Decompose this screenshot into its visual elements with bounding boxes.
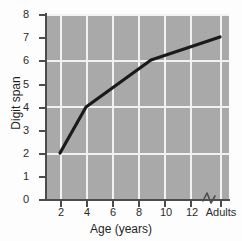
y-tick-6	[39, 60, 46, 62]
gridline-vertical-10	[164, 14, 166, 200]
gridline-vertical-4	[86, 14, 88, 200]
y-tick-4	[39, 107, 46, 109]
digit-span-line-chart: 8 7 6 5 4 3 2 1 0 2 4 6 8 10 12 Adults A…	[0, 0, 242, 241]
y-tick-0	[39, 199, 46, 201]
y-tick-label-0: 0	[0, 194, 29, 205]
y-tick-label-1: 1	[0, 171, 29, 182]
y-tick-2	[39, 153, 46, 155]
y-tick-label-8: 8	[0, 9, 29, 20]
y-tick-8	[39, 14, 46, 16]
gridline-vertical-adults	[220, 14, 222, 200]
x-tick-label-2: 2	[58, 207, 64, 218]
x-tick-label-12: 12	[186, 207, 198, 218]
y-tick-5	[39, 84, 46, 86]
y-tick-3	[39, 130, 46, 132]
gridline-vertical-8	[138, 14, 140, 200]
y-tick-1	[39, 176, 46, 178]
x-tick-label-10: 10	[160, 207, 172, 218]
x-tick-label-6: 6	[110, 207, 116, 218]
gridline-vertical-6	[112, 14, 114, 200]
y-tick-label-7: 7	[0, 32, 29, 43]
plot-area	[46, 14, 229, 200]
x-axis-title: Age (years)	[0, 222, 242, 236]
y-tick-7	[39, 37, 46, 39]
x-tick-label-4: 4	[84, 207, 90, 218]
gridline-vertical-12	[190, 14, 192, 200]
y-axis-title: Digit span	[9, 43, 23, 163]
x-tick-label-adults: Adults	[206, 207, 237, 218]
x-tick-label-8: 8	[136, 207, 142, 218]
gridline-vertical-2	[60, 14, 62, 200]
